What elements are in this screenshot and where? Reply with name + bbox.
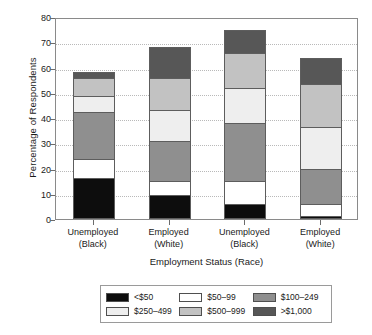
plot-inner xyxy=(56,19,357,219)
bar-segment[interactable] xyxy=(149,78,191,111)
x-axis-tick-mark xyxy=(169,220,170,225)
stacked-bar[interactable] xyxy=(300,58,342,219)
x-category-line-2: (White) xyxy=(277,239,363,251)
y-axis-tick-label: 80 xyxy=(21,13,51,23)
legend-swatch xyxy=(106,293,129,302)
bar-segment[interactable] xyxy=(224,53,266,90)
legend: <$50$50–99$100–249 $250–499$500–999>$1,0… xyxy=(100,285,332,323)
bar-segment[interactable] xyxy=(224,123,266,182)
x-axis-category-label: Employed(White) xyxy=(277,227,363,250)
x-axis-tick-mark xyxy=(320,220,321,225)
y-axis-tick-label: 30 xyxy=(21,139,51,149)
y-axis-tick-mark xyxy=(50,220,55,221)
bar-segment[interactable] xyxy=(224,181,266,205)
y-axis-tick-label: 70 xyxy=(21,38,51,48)
legend-row: $250–499$500–999>$1,000 xyxy=(106,304,326,318)
legend-label: $500–999 xyxy=(207,306,245,316)
bar-segment[interactable] xyxy=(300,169,342,204)
legend-swatch xyxy=(179,307,202,316)
legend-label: <$50 xyxy=(134,292,153,302)
bar-segment[interactable] xyxy=(149,110,191,143)
legend-item[interactable]: $500–999 xyxy=(179,306,252,316)
x-category-line-2: (White) xyxy=(126,239,212,251)
stacked-bar-chart-figure: Percentage of Respondents 01020304050607… xyxy=(0,0,372,335)
bar-segment[interactable] xyxy=(224,204,266,219)
bar-segment[interactable] xyxy=(73,78,115,97)
legend-row: <$50$50–99$100–249 xyxy=(106,290,326,304)
bar-segment[interactable] xyxy=(149,181,191,196)
bar-segment[interactable] xyxy=(73,159,115,179)
x-category-line-1: Unemployed xyxy=(219,227,270,237)
x-category-line-2: (Black) xyxy=(50,239,136,251)
bar-segment[interactable] xyxy=(149,141,191,181)
bar-segment[interactable] xyxy=(224,88,266,123)
legend-item[interactable]: <$50 xyxy=(106,292,179,302)
x-axis-category-label: Employed(White) xyxy=(126,227,212,250)
bar-segment[interactable] xyxy=(149,47,191,79)
stacked-bar[interactable] xyxy=(149,47,191,219)
x-axis-tick-mark xyxy=(244,220,245,225)
y-axis-tick-label: 10 xyxy=(21,190,51,200)
x-category-line-1: Unemployed xyxy=(68,227,119,237)
x-axis-category-label: Unemployed(Black) xyxy=(201,227,287,250)
bar-segment[interactable] xyxy=(73,178,115,219)
legend-label: $100–249 xyxy=(281,292,319,302)
y-axis-tick-label: 50 xyxy=(21,89,51,99)
stacked-bar[interactable] xyxy=(73,72,115,219)
y-axis-tick-label: 40 xyxy=(21,114,51,124)
x-category-line-1: Employed xyxy=(149,227,189,237)
y-axis-tick-label: 0 xyxy=(21,215,51,225)
x-axis-title: Employment Status (Race) xyxy=(55,256,358,267)
y-axis-tick-label: 20 xyxy=(21,165,51,175)
stacked-bar[interactable] xyxy=(224,30,266,219)
x-axis-category-label: Unemployed(Black) xyxy=(50,227,136,250)
legend-swatch xyxy=(253,307,276,316)
legend-item[interactable]: $100–249 xyxy=(253,292,326,302)
x-category-line-1: Employed xyxy=(300,227,340,237)
legend-swatch xyxy=(253,293,276,302)
bar-segment[interactable] xyxy=(300,84,342,128)
gridline xyxy=(56,44,357,45)
y-axis-tick-label: 60 xyxy=(21,64,51,74)
bar-segment[interactable] xyxy=(300,216,342,219)
legend-item[interactable]: >$1,000 xyxy=(253,306,326,316)
legend-swatch xyxy=(106,307,129,316)
legend-label: $250–499 xyxy=(134,306,172,316)
bar-segment[interactable] xyxy=(300,58,342,85)
x-axis-tick-mark xyxy=(93,220,94,225)
legend-label: >$1,000 xyxy=(281,306,312,316)
bar-segment[interactable] xyxy=(300,204,342,218)
bar-segment[interactable] xyxy=(149,195,191,219)
bar-segment[interactable] xyxy=(224,30,266,54)
bar-segment[interactable] xyxy=(73,112,115,160)
legend-swatch xyxy=(179,293,202,302)
plot-area xyxy=(55,18,358,220)
legend-label: $50–99 xyxy=(207,292,235,302)
x-category-line-2: (Black) xyxy=(201,239,287,251)
bar-segment[interactable] xyxy=(73,96,115,112)
legend-item[interactable]: $50–99 xyxy=(179,292,252,302)
bar-segment[interactable] xyxy=(300,127,342,170)
legend-item[interactable]: $250–499 xyxy=(106,306,179,316)
